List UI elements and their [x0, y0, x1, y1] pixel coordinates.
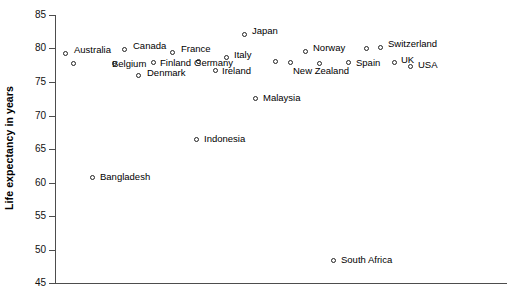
y-tick-label-wrap: 50 — [14, 245, 46, 255]
data-point[interactable] — [331, 258, 336, 263]
data-point[interactable] — [63, 51, 68, 56]
data-point[interactable] — [224, 55, 229, 60]
data-point-label: Spain — [356, 58, 380, 68]
data-point[interactable] — [288, 60, 293, 65]
data-point[interactable] — [136, 73, 141, 78]
data-point[interactable] — [378, 45, 383, 50]
y-tick-label: 45 — [20, 278, 46, 288]
data-point-label: Canada — [133, 41, 166, 51]
data-point-label: Ireland — [222, 66, 251, 76]
data-point-label: Italy — [234, 50, 251, 60]
y-tick-label-wrap: 70 — [14, 111, 46, 121]
data-point[interactable] — [273, 59, 278, 64]
y-tick-label-wrap: 80 — [14, 43, 46, 53]
x-axis-line — [55, 283, 507, 284]
data-point-label: Malaysia — [263, 93, 301, 103]
data-point-label: Denmark — [147, 68, 186, 78]
data-point-label: Australia — [74, 45, 111, 55]
y-tick-label: 85 — [20, 10, 46, 20]
data-point[interactable] — [71, 61, 76, 66]
y-tick-label: 55 — [20, 211, 46, 221]
y-tick-label-wrap: 60 — [14, 178, 46, 188]
data-point[interactable] — [346, 60, 351, 65]
data-point[interactable] — [408, 64, 413, 69]
y-tick-label-wrap: 45 — [14, 278, 46, 288]
data-point[interactable] — [253, 96, 258, 101]
y-tick-label: 75 — [20, 77, 46, 87]
data-point[interactable] — [213, 68, 218, 73]
data-point[interactable] — [392, 60, 397, 65]
data-point-label: South Africa — [341, 255, 392, 265]
data-point-label: Indonesia — [204, 134, 245, 144]
y-tick-label: 50 — [20, 245, 46, 255]
data-point-label: New Zealand — [293, 66, 349, 76]
data-point[interactable] — [170, 50, 175, 55]
y-tick-label-wrap: 55 — [14, 211, 46, 221]
data-point-label: UK — [401, 55, 414, 65]
data-point-label: USA — [418, 60, 438, 70]
data-point-label: Switzerland — [388, 39, 437, 49]
y-tick-label: 70 — [20, 111, 46, 121]
data-point[interactable] — [242, 32, 247, 37]
y-tick-label-wrap: 85 — [14, 10, 46, 20]
data-point-label: Belgium — [112, 59, 146, 69]
data-point-label: Bangladesh — [100, 172, 150, 182]
data-point[interactable] — [303, 49, 308, 54]
y-tick-label: 65 — [20, 144, 46, 154]
y-tick-label: 80 — [20, 43, 46, 53]
data-point-label: Norway — [313, 43, 345, 53]
scatter-chart: Life expectancy in years 858075706560555… — [0, 0, 510, 296]
y-axis-line — [55, 15, 56, 284]
data-point-label: France — [181, 44, 211, 54]
y-tick-label-wrap: 65 — [14, 144, 46, 154]
data-point[interactable] — [194, 137, 199, 142]
data-point[interactable] — [151, 60, 156, 65]
data-point-label: Japan — [252, 26, 278, 36]
data-point[interactable] — [90, 175, 95, 180]
data-point[interactable] — [122, 47, 127, 52]
data-point[interactable] — [364, 46, 369, 51]
y-tick-label: 60 — [20, 178, 46, 188]
y-tick-label-wrap: 75 — [14, 77, 46, 87]
data-point[interactable] — [112, 61, 117, 66]
